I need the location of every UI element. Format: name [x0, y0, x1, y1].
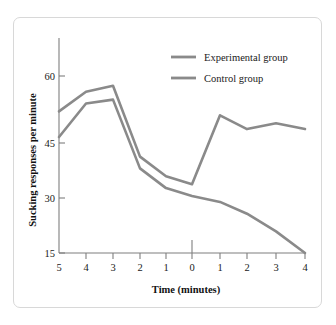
- x-tick-label-6: 1: [217, 262, 222, 273]
- chart-plot-area: 60 45 30 15 5 4 3 2 1 0 1 2 3 4 Time (mi…: [0, 0, 336, 325]
- y-tick-label-0: 60: [45, 71, 56, 82]
- x-tick-label-0: 5: [56, 262, 61, 273]
- legend-label-control-group: Control group: [204, 73, 263, 84]
- x-tick-label-5: 0: [189, 262, 194, 273]
- x-tick-label-2: 3: [110, 262, 115, 273]
- x-tick-label-8: 3: [273, 262, 278, 273]
- y-tick-label-2: 30: [45, 193, 56, 204]
- series-line-experimental-group: [59, 86, 305, 184]
- y-axis-title: Sucking responses per minute: [27, 93, 38, 227]
- y-tick-label-1: 45: [45, 138, 56, 149]
- y-tick-label-3: 15: [45, 248, 56, 259]
- legend-label-experimental-group: Experimental group: [204, 52, 288, 63]
- series-line-control-group: [59, 100, 305, 253]
- line-chart-svg: 60 45 30 15 5 4 3 2 1 0 1 2 3 4 Time (mi…: [0, 0, 336, 325]
- x-axis-title: Time (minutes): [152, 284, 221, 296]
- x-tick-label-4: 1: [163, 262, 168, 273]
- x-tick-label-1: 4: [83, 262, 89, 273]
- x-tick-label-9: 4: [302, 262, 308, 273]
- chart-legend: Experimental group Control group: [171, 52, 288, 84]
- x-tick-label-3: 2: [137, 262, 142, 273]
- x-tick-label-7: 2: [244, 262, 249, 273]
